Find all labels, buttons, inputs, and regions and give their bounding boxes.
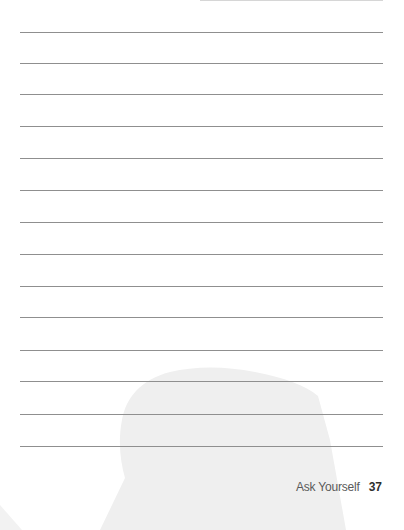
ruled-line [20,254,383,255]
ruled-line [20,286,383,287]
head-silhouette-graphic [0,0,404,530]
section-title: Ask Yourself [296,480,360,494]
ruled-line [20,350,383,351]
ruled-line [20,446,383,447]
ruled-line [20,414,383,415]
ruled-line [20,32,383,33]
ruled-line [20,317,383,318]
notebook-page: Ask Yourself37 [0,0,404,530]
ruled-line [20,158,383,159]
ruled-line [20,126,383,127]
ruled-line [20,190,383,191]
ruled-line [20,63,383,64]
page-number: 37 [369,480,382,494]
ruled-line [200,0,383,1]
ruled-line [20,222,383,223]
ruled-line [20,381,383,382]
ruled-line [20,94,383,95]
page-footer: Ask Yourself37 [296,480,382,494]
